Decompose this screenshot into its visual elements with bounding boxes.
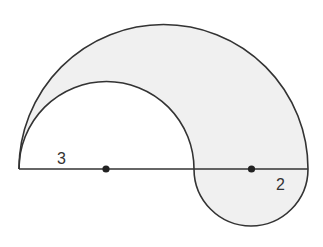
geometry-figure: 3 2	[0, 0, 323, 247]
center-point-small	[102, 165, 109, 172]
label-radius-3: 3	[57, 150, 66, 167]
shaded-region	[19, 25, 308, 226]
label-radius-2: 2	[276, 176, 285, 193]
center-point-lower	[248, 165, 255, 172]
